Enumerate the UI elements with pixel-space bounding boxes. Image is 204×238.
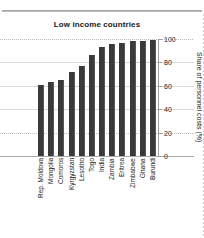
x-axis-label: India [99,158,105,234]
y-tick-20 [158,133,162,134]
x-axis-label: Zimbabwe [130,158,136,234]
y-tick-label-80: 80 [164,59,172,66]
x-axis-label: Burundi [150,158,156,234]
y-axis-title: Share of personnel costs (%) [193,39,204,156]
x-axis-label: Kyrgyzstan [69,158,75,234]
y-tick-0 [158,156,162,157]
bar [109,44,115,156]
y-tick-60 [158,86,162,87]
x-axis-label: Mongolia [48,158,54,234]
x-axis-label: Ghana [140,158,146,234]
bar [140,41,146,156]
bar [99,47,105,156]
bar [58,80,64,156]
y-tick-80 [158,62,162,63]
chart-title: Low income countries [36,20,158,29]
bar-series [36,39,158,156]
top-divider [2,10,202,12]
y-axis-line [158,39,159,156]
y-tick-100 [158,39,162,40]
bar [89,55,95,156]
plot-area [36,39,158,156]
x-axis-label: Eritrea [119,158,125,234]
x-axis-label: Zambia [109,158,115,234]
x-axis-labels: Rep. MoldovaMongoliaComorosKyrgyzstanLes… [36,158,158,234]
bar [130,41,136,156]
y-tick-label-20: 20 [164,129,172,136]
x-axis-label: Togo [89,158,95,234]
bar [69,72,75,156]
y-tick-label-0: 0 [164,153,168,160]
y-tick-label-40: 40 [164,106,172,113]
bar [38,85,44,156]
x-axis-label: Lesotho [79,158,85,234]
y-tick-label-60: 60 [164,82,172,89]
chart-page: Low income countries 020406080100 Share … [0,0,204,238]
y-tick-label-100: 100 [164,36,176,43]
bar [79,66,85,156]
y-tick-40 [158,109,162,110]
bar [119,43,125,156]
x-axis-label: Comoros [58,158,64,234]
bar [150,40,156,156]
bar [48,82,54,156]
x-axis-label: Rep. Moldova [38,158,44,234]
